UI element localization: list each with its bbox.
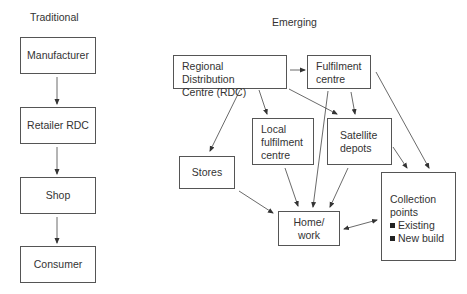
box-retailer-rdc-label: Retailer RDC bbox=[27, 119, 89, 132]
local-line1: Local bbox=[261, 123, 305, 136]
box-local-fulfilment-centre: Local fulfilment centre bbox=[252, 118, 314, 165]
box-home-work: Home/ work bbox=[278, 211, 340, 246]
home-line1: Home/ bbox=[294, 216, 325, 229]
box-satellite-depots: Satellite depots bbox=[327, 118, 392, 165]
box-stores: Stores bbox=[179, 156, 235, 189]
box-retailer-rdc: Retailer RDC bbox=[20, 107, 96, 144]
fulfilment-line1: Fulfilment bbox=[316, 60, 362, 73]
satellite-line1: Satellite bbox=[340, 129, 391, 142]
collection-line2: points bbox=[390, 206, 455, 219]
collection-points-list: Existing New build bbox=[390, 219, 455, 245]
fulfilment-line2: centre bbox=[316, 73, 362, 86]
bullet-square-icon bbox=[390, 223, 395, 228]
box-fulfilment-centre: Fulfilment centre bbox=[307, 55, 371, 89]
home-line2: work bbox=[298, 229, 320, 242]
box-shop-label: Shop bbox=[46, 189, 71, 202]
bullet-square-icon bbox=[390, 236, 395, 241]
box-collection-points: Collection points Existing New build bbox=[381, 172, 456, 261]
collection-line1: Collection bbox=[390, 193, 455, 206]
traditional-heading: Traditional bbox=[30, 11, 79, 23]
satellite-line2: depots bbox=[340, 142, 391, 155]
collection-item-new-build: New build bbox=[390, 232, 455, 245]
local-line2: fulfilment bbox=[261, 136, 305, 149]
rdc-line1: Regional Distribution bbox=[182, 60, 278, 86]
box-consumer-label: Consumer bbox=[34, 258, 82, 271]
box-manufacturer: Manufacturer bbox=[20, 37, 96, 74]
local-line3: centre bbox=[261, 149, 305, 162]
box-consumer: Consumer bbox=[20, 246, 96, 283]
box-regional-distribution-centre: Regional Distribution Centre (RDC) bbox=[173, 55, 287, 89]
rdc-line2: Centre (RDC) bbox=[182, 86, 278, 99]
box-manufacturer-label: Manufacturer bbox=[27, 49, 89, 62]
emerging-heading: Emerging bbox=[272, 16, 317, 28]
collection-item-existing: Existing bbox=[390, 219, 455, 232]
stores-label: Stores bbox=[192, 166, 222, 179]
box-shop: Shop bbox=[20, 177, 96, 214]
